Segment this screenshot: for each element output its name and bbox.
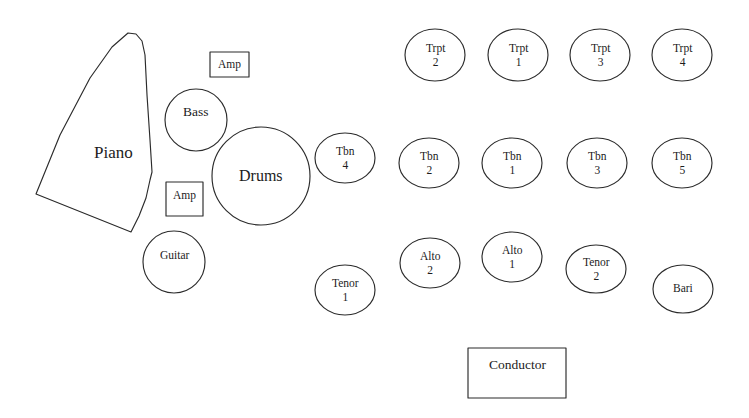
seat-trpt-2[interactable] [405,29,465,81]
amp-bottom[interactable] [166,182,203,216]
seat-trpt-4[interactable] [652,29,712,81]
seat-tenor-1[interactable] [315,265,375,315]
seat-tenor-2[interactable] [566,245,626,293]
seat-tbn-3[interactable] [567,138,627,188]
seat-alto-2[interactable] [400,238,460,288]
guitar[interactable] [143,231,205,293]
seat-tbn-4[interactable] [315,133,375,183]
seat-tbn-1[interactable] [482,138,542,188]
seat-trpt-1[interactable] [488,29,548,81]
drums[interactable] [212,127,310,225]
piano[interactable] [36,33,152,232]
amp-top[interactable] [210,52,249,77]
seat-bari[interactable] [653,265,713,313]
seat-tbn-2[interactable] [399,138,459,188]
seat-tbn-5[interactable] [652,138,712,188]
seat-trpt-3[interactable] [570,29,630,81]
conductor[interactable] [468,348,566,398]
seat-alto-1[interactable] [482,232,542,282]
stage-seating-diagram: Trpt 2Trpt 1Trpt 3Trpt 4Tbn 4Tbn 2Tbn 1T… [0,0,749,418]
